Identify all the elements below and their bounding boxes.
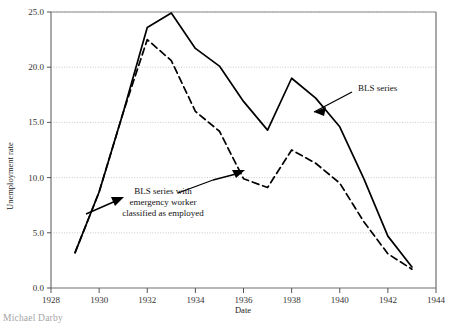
y-axis: 0.05.010.015.020.025.0 — [28, 7, 51, 293]
figure-container: 0.05.010.015.020.025.0 19281930193219341… — [0, 0, 452, 325]
unemployment-rate-line-chart: 0.05.010.015.020.025.0 19281930193219341… — [0, 0, 452, 325]
y-tick-label-20.0: 20.0 — [28, 62, 44, 72]
x-tick-label-1944: 1944 — [427, 295, 446, 305]
bls-series-annotation-line-0: BLS series — [358, 83, 398, 93]
x-tick-label-1942: 1942 — [379, 295, 397, 305]
bls-emergency-annotation-line-1: emergency worker — [129, 197, 196, 207]
x-tick-label-1930: 1930 — [90, 295, 109, 305]
x-tick-label-1928: 1928 — [42, 295, 61, 305]
x-tick-label-1934: 1934 — [186, 295, 205, 305]
x-tick-label-1932: 1932 — [138, 295, 156, 305]
y-tick-label-25.0: 25.0 — [28, 7, 44, 17]
plot-background — [51, 12, 436, 288]
y-axis-title: Unemployment rate — [5, 142, 15, 210]
bls-emergency-annotation-line-0: BLS series with — [134, 186, 192, 196]
caption-text: Michael Darby — [0, 313, 452, 323]
y-tick-label-0.0: 0.0 — [33, 283, 45, 293]
y-tick-label-15.0: 15.0 — [28, 117, 44, 127]
bls-series-annotation: BLS series — [358, 83, 398, 93]
y-tick-label-10.0: 10.0 — [28, 173, 44, 183]
bls-emergency-annotation-line-2: classified as employed — [122, 208, 204, 218]
page-caption-partial: Michael Darby — [0, 313, 452, 325]
x-axis: 192819301932193419361938194019421944 — [42, 288, 446, 305]
x-tick-label-1940: 1940 — [331, 295, 350, 305]
y-tick-label-5.0: 5.0 — [33, 228, 45, 238]
x-tick-label-1938: 1938 — [283, 295, 302, 305]
x-tick-label-1936: 1936 — [235, 295, 254, 305]
